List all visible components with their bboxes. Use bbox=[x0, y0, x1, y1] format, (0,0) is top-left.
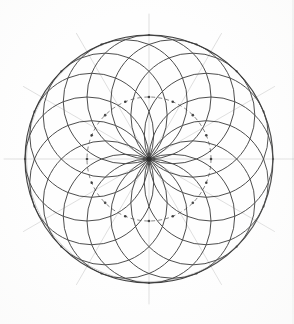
outer-mark-8 bbox=[148, 282, 150, 284]
outer-mark-11 bbox=[33, 205, 35, 207]
outer-mark-10 bbox=[60, 246, 62, 248]
outer-mark-12 bbox=[24, 158, 26, 160]
outer-mark-6 bbox=[236, 246, 238, 248]
center-mark-5 bbox=[205, 181, 208, 184]
outer-mark-0 bbox=[148, 34, 150, 36]
outer-mark-1 bbox=[195, 43, 197, 45]
center-mark-10 bbox=[104, 202, 107, 205]
outer-mark-9 bbox=[100, 272, 102, 274]
center-mark-4 bbox=[210, 158, 213, 161]
center-mark-11 bbox=[90, 181, 93, 184]
outer-mark-13 bbox=[33, 110, 35, 112]
center-mark-6 bbox=[192, 202, 195, 205]
outer-mark-3 bbox=[262, 110, 264, 112]
center-mark-8 bbox=[148, 220, 151, 223]
geometric-construction-canvas bbox=[0, 0, 294, 324]
figure-root bbox=[0, 0, 294, 324]
center-mark-9 bbox=[124, 215, 127, 218]
outer-mark-2 bbox=[236, 70, 238, 72]
center-mark-3 bbox=[205, 134, 208, 137]
center-mark-7 bbox=[171, 215, 174, 218]
outer-mark-5 bbox=[262, 205, 264, 207]
outer-mark-15 bbox=[100, 43, 102, 45]
outer-mark-4 bbox=[272, 158, 274, 160]
outer-mark-7 bbox=[195, 272, 197, 274]
center-mark-14 bbox=[104, 114, 107, 117]
center-mark-13 bbox=[90, 134, 93, 137]
center-hub bbox=[146, 156, 151, 161]
center-mark-12 bbox=[86, 158, 89, 161]
center-mark-2 bbox=[192, 114, 195, 117]
outer-mark-14 bbox=[60, 70, 62, 72]
center-mark-0 bbox=[148, 96, 151, 99]
center-mark-1 bbox=[171, 100, 174, 103]
center-mark-15 bbox=[124, 100, 127, 103]
